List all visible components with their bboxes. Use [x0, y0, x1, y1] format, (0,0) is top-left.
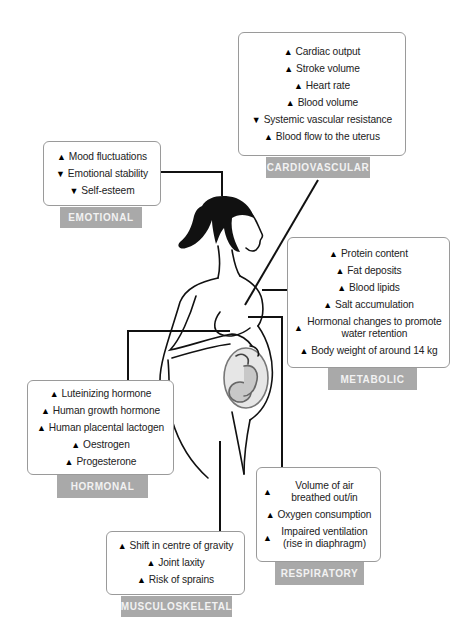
metabolic-item: ▲Body weight of around 14 kg: [299, 345, 437, 357]
cardiovascular-item: ▲Cardiac output: [284, 46, 361, 58]
respiratory-box: ▲Volume of air breathed out/in▲Oxygen co…: [256, 467, 381, 562]
face-profile: [246, 212, 263, 251]
respiratory-item: ▲Oxygen consumption: [266, 509, 372, 521]
hormonal-label: HORMONAL: [57, 475, 148, 498]
arrow-up-icon: ▲: [263, 486, 272, 498]
musculoskeletal-item-text: Shift in centre of gravity: [129, 540, 233, 552]
metabolic-item-text: Salt accumulation: [335, 299, 414, 311]
arrow-up-icon: ▲: [284, 46, 293, 58]
metabolic-item: ▲Protein content: [329, 248, 408, 260]
metabolic-item: ▲Salt accumulation: [323, 299, 414, 311]
musculoskeletal-item: ▲Shift in centre of gravity: [118, 540, 234, 552]
cardiovascular-item: ▲Blood volume: [286, 97, 358, 109]
emotional-item: ▼Emotional stability: [56, 168, 148, 180]
hormonal-item: ▲Oestrogen: [71, 439, 129, 451]
arrow-up-icon: ▲: [50, 388, 59, 400]
metabolic-item-text: Blood lipids: [349, 282, 400, 294]
cardiovascular-item: ▲Blood flow to the uterus: [264, 131, 380, 143]
respiratory-item-text: Oxygen consumption: [277, 509, 371, 521]
musculoskeletal-item: ▲Risk of sprains: [137, 574, 214, 586]
cardiovascular-item-text: Systemic vascular resistance: [264, 114, 393, 126]
respiratory-item: ▲Impaired ventilation (rise in diaphragm…: [263, 526, 374, 550]
emotional-item-text: Self-esteem: [81, 185, 134, 197]
arrow-up-icon: ▲: [37, 422, 46, 434]
hormonal-item: ▲Human placental lactogen: [37, 422, 164, 434]
arrow-down-icon: ▼: [56, 168, 65, 180]
arrow-up-icon: ▲: [264, 131, 273, 143]
cardiovascular-label: CARDIOVASCULAR: [266, 157, 370, 178]
hair: [178, 196, 254, 252]
metabolic-item: ▲Blood lipids: [337, 282, 400, 294]
metabolic-item-text: Hormonal changes to promote water retent…: [306, 316, 443, 340]
cardiovascular-item: ▲Stroke volume: [284, 63, 360, 75]
forearm: [172, 344, 230, 358]
musculoskeletal-item: ▲Joint laxity: [146, 557, 204, 569]
metabolic-item: ▲Hormonal changes to promote water reten…: [294, 316, 443, 340]
neck-back: [218, 246, 220, 278]
hormonal-item-text: Oestrogen: [83, 439, 130, 451]
pregnant-woman-figure: [160, 196, 272, 478]
arrow-up-icon: ▲: [286, 97, 295, 109]
arrow-up-icon: ▲: [323, 299, 332, 311]
arrow-up-icon: ▲: [118, 540, 127, 552]
hormonal-item: ▲Progesterone: [65, 456, 137, 468]
pregnancy-changes-diagram: ▲Cardiac output▲Stroke volume▲Heart rate…: [0, 0, 469, 638]
hormonal-item-text: Progesterone: [76, 456, 136, 468]
arrow-up-icon: ▲: [71, 439, 80, 451]
arrow-up-icon: ▲: [299, 345, 308, 357]
emotional-label: EMOTIONAL: [60, 207, 142, 228]
arrow-up-icon: ▲: [57, 151, 66, 163]
emotional-item: ▲Mood fluctuations: [57, 151, 147, 163]
cardiovascular-item-text: Heart rate: [306, 80, 350, 92]
hormonal-item-text: Luteinizing hormone: [61, 388, 151, 400]
respiratory-item-text: Volume of air breathed out/in: [275, 480, 374, 504]
metabolic-item-text: Body weight of around 14 kg: [311, 345, 437, 357]
cardiovascular-item-text: Cardiac output: [295, 46, 360, 58]
emotional-item-text: Emotional stability: [68, 168, 148, 180]
front-leg: [244, 420, 250, 474]
hormonal-item: ▲Human growth hormone: [41, 405, 160, 417]
musculoskeletal-box: ▲Shift in centre of gravity▲Joint laxity…: [106, 531, 245, 595]
cardiovascular-item: ▼Systemic vascular resistance: [252, 114, 392, 126]
arrow-down-icon: ▼: [69, 185, 78, 197]
arrow-up-icon: ▲: [284, 63, 293, 75]
emotional-item-text: Mood fluctuations: [69, 151, 147, 163]
arrow-up-icon: ▲: [266, 509, 275, 521]
arrow-up-icon: ▲: [137, 574, 146, 586]
arrow-up-icon: ▲: [329, 248, 338, 260]
cardiovascular-item-text: Blood flow to the uterus: [276, 131, 380, 143]
emotional-item: ▼Self-esteem: [69, 185, 134, 197]
arrow-up-icon: ▲: [146, 557, 155, 569]
respiratory-item: ▲Volume of air breathed out/in: [263, 480, 374, 504]
hormonal-item-text: Human growth hormone: [53, 405, 160, 417]
neck: [232, 250, 240, 276]
cardiovascular-item: ▲Heart rate: [294, 80, 350, 92]
arrow-up-icon: ▲: [337, 282, 346, 294]
cardiovascular-box: ▲Cardiac output▲Stroke volume▲Heart rate…: [238, 32, 406, 156]
arrow-up-icon: ▲: [294, 80, 303, 92]
arrow-down-icon: ▼: [252, 114, 261, 126]
arrow-up-icon: ▲: [41, 405, 50, 417]
respiratory-label: RESPIRATORY: [275, 562, 364, 585]
arrow-up-icon: ▲: [335, 265, 344, 277]
arrow-up-icon: ▲: [65, 456, 74, 468]
connector-emotional: [160, 172, 222, 196]
hormonal-item-text: Human placental lactogen: [49, 422, 164, 434]
metabolic-item: ▲Fat deposits: [335, 265, 401, 277]
musculoskeletal-item-text: Risk of sprains: [149, 574, 214, 586]
shoulder-front: [240, 276, 263, 326]
arrow-up-icon: ▲: [263, 532, 272, 544]
metabolic-label: METABOLIC: [328, 368, 417, 390]
metabolic-box: ▲Protein content▲Fat deposits▲Blood lipi…: [287, 237, 450, 368]
inner-leg: [232, 412, 244, 474]
emotional-box: ▲Mood fluctuations▼Emotional stability▼S…: [43, 141, 161, 206]
arm: [170, 296, 252, 350]
breast: [215, 312, 250, 336]
musculoskeletal-item-text: Joint laxity: [158, 557, 204, 569]
hormonal-box: ▲Luteinizing hormone▲Human growth hormon…: [27, 380, 174, 475]
metabolic-item-text: Protein content: [341, 248, 408, 260]
metabolic-item-text: Fat deposits: [347, 265, 401, 277]
respiratory-item-text: Impaired ventilation (rise in diaphragm): [275, 526, 374, 550]
cardiovascular-item-text: Stroke volume: [296, 63, 360, 75]
hormonal-item: ▲Luteinizing hormone: [50, 388, 152, 400]
